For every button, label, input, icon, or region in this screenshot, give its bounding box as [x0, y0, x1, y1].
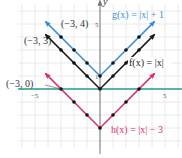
data-point [124, 48, 128, 52]
data-point [85, 61, 89, 65]
data-point [72, 100, 76, 104]
y-tick-label: 5 [95, 21, 99, 29]
data-point [137, 48, 141, 52]
data-point [59, 48, 63, 52]
data-point [124, 100, 128, 104]
data-point [98, 74, 102, 78]
annotation-point: (−3, 0) [6, 78, 33, 90]
data-point [98, 87, 102, 91]
data-point [137, 35, 141, 39]
data-point [85, 74, 89, 78]
f-label: f(x) = |x| [129, 57, 164, 69]
data-point [72, 61, 76, 65]
data-point [111, 113, 115, 117]
data-point [98, 126, 102, 130]
g-label: g(x) = |x| + 1 [112, 9, 164, 21]
data-point [111, 74, 115, 78]
y-axis-arrow-icon [98, 0, 103, 6]
data-point [59, 35, 63, 39]
h-label: h(x) = |x| − 3 [111, 124, 163, 136]
annotation-point: (−3, 4) [61, 18, 88, 30]
x-tick-label: −5 [31, 92, 39, 100]
chart: y−5551 g(x) = |x| + 1f(x) = |x|h(x) = |x… [0, 0, 182, 158]
y-axis-label: y [102, 0, 108, 7]
annotation-point: (−3, 3) [24, 35, 51, 47]
data-point [124, 61, 128, 65]
data-point [111, 61, 115, 65]
data-point [72, 48, 76, 52]
data-point [85, 113, 89, 117]
data-point [137, 87, 141, 91]
x-tick-label: 5 [163, 92, 167, 100]
